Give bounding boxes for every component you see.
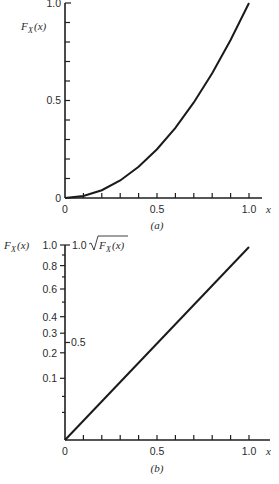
svg-text:X: X xyxy=(27,26,34,35)
panel-b-x-label-05: 0.5 xyxy=(150,445,165,457)
svg-text:(x): (x) xyxy=(34,20,47,33)
svg-text:X: X xyxy=(105,245,112,254)
panel-a-x-var: x xyxy=(265,203,271,215)
panel-b-caption: (b) xyxy=(151,462,164,475)
svg-text:0.3: 0.3 xyxy=(42,327,57,339)
svg-text:F: F xyxy=(20,20,28,32)
svg-text:0.2: 0.2 xyxy=(42,347,57,359)
svg-text:F: F xyxy=(3,239,11,251)
panel-b-sqrt-title: F X (x) xyxy=(89,236,128,254)
panel-b-y-title: F X (x) xyxy=(3,239,30,254)
svg-text:1.0: 1.0 xyxy=(42,239,57,251)
panel-b-x-label-0: 0 xyxy=(62,445,68,457)
panel-b: 1.0 0.8 0.6 0.4 0.3 0.2 0.1 F X (x) 1.0 … xyxy=(3,236,271,475)
svg-text:0.4: 0.4 xyxy=(42,311,57,323)
svg-text:(x): (x) xyxy=(112,239,125,252)
panel-a-curve xyxy=(65,3,249,198)
panel-b-sqrt-label-1: 1.0 xyxy=(72,239,87,251)
svg-text:X: X xyxy=(10,245,17,254)
panel-a-x-label-1: 1.0 xyxy=(242,203,257,215)
panel-a-y-label-1: 1.0 xyxy=(46,0,61,9)
panel-b-x-label-1: 1.0 xyxy=(242,445,257,457)
panel-a-x-label-05: 0.5 xyxy=(150,203,165,215)
svg-text:(x): (x) xyxy=(17,239,30,252)
svg-text:0.8: 0.8 xyxy=(42,260,57,272)
svg-text:0.1: 0.1 xyxy=(42,372,57,384)
svg-text:0.6: 0.6 xyxy=(42,283,57,295)
panel-a-y-label-05: 0.5 xyxy=(46,94,61,106)
panel-a: 1.0 0.5 0 F X (x) 0 0.5 1.0 x (a) xyxy=(20,0,271,232)
panel-a-y-label-0: 0 xyxy=(55,192,61,204)
figure: 1.0 0.5 0 F X (x) 0 0.5 1.0 x (a) xyxy=(0,0,279,484)
panel-b-y-labels-left: 1.0 0.8 0.6 0.4 0.3 0.2 0.1 xyxy=(42,239,57,384)
panel-a-x-label-0: 0 xyxy=(62,203,68,215)
panel-b-sqrt-label-05: 0.5 xyxy=(71,336,86,348)
panel-b-line xyxy=(65,247,249,440)
panel-b-x-var: x xyxy=(265,445,271,457)
panel-a-y-title: F X (x) xyxy=(20,20,47,35)
panel-a-caption: (a) xyxy=(151,219,164,232)
svg-text:F: F xyxy=(98,239,106,251)
